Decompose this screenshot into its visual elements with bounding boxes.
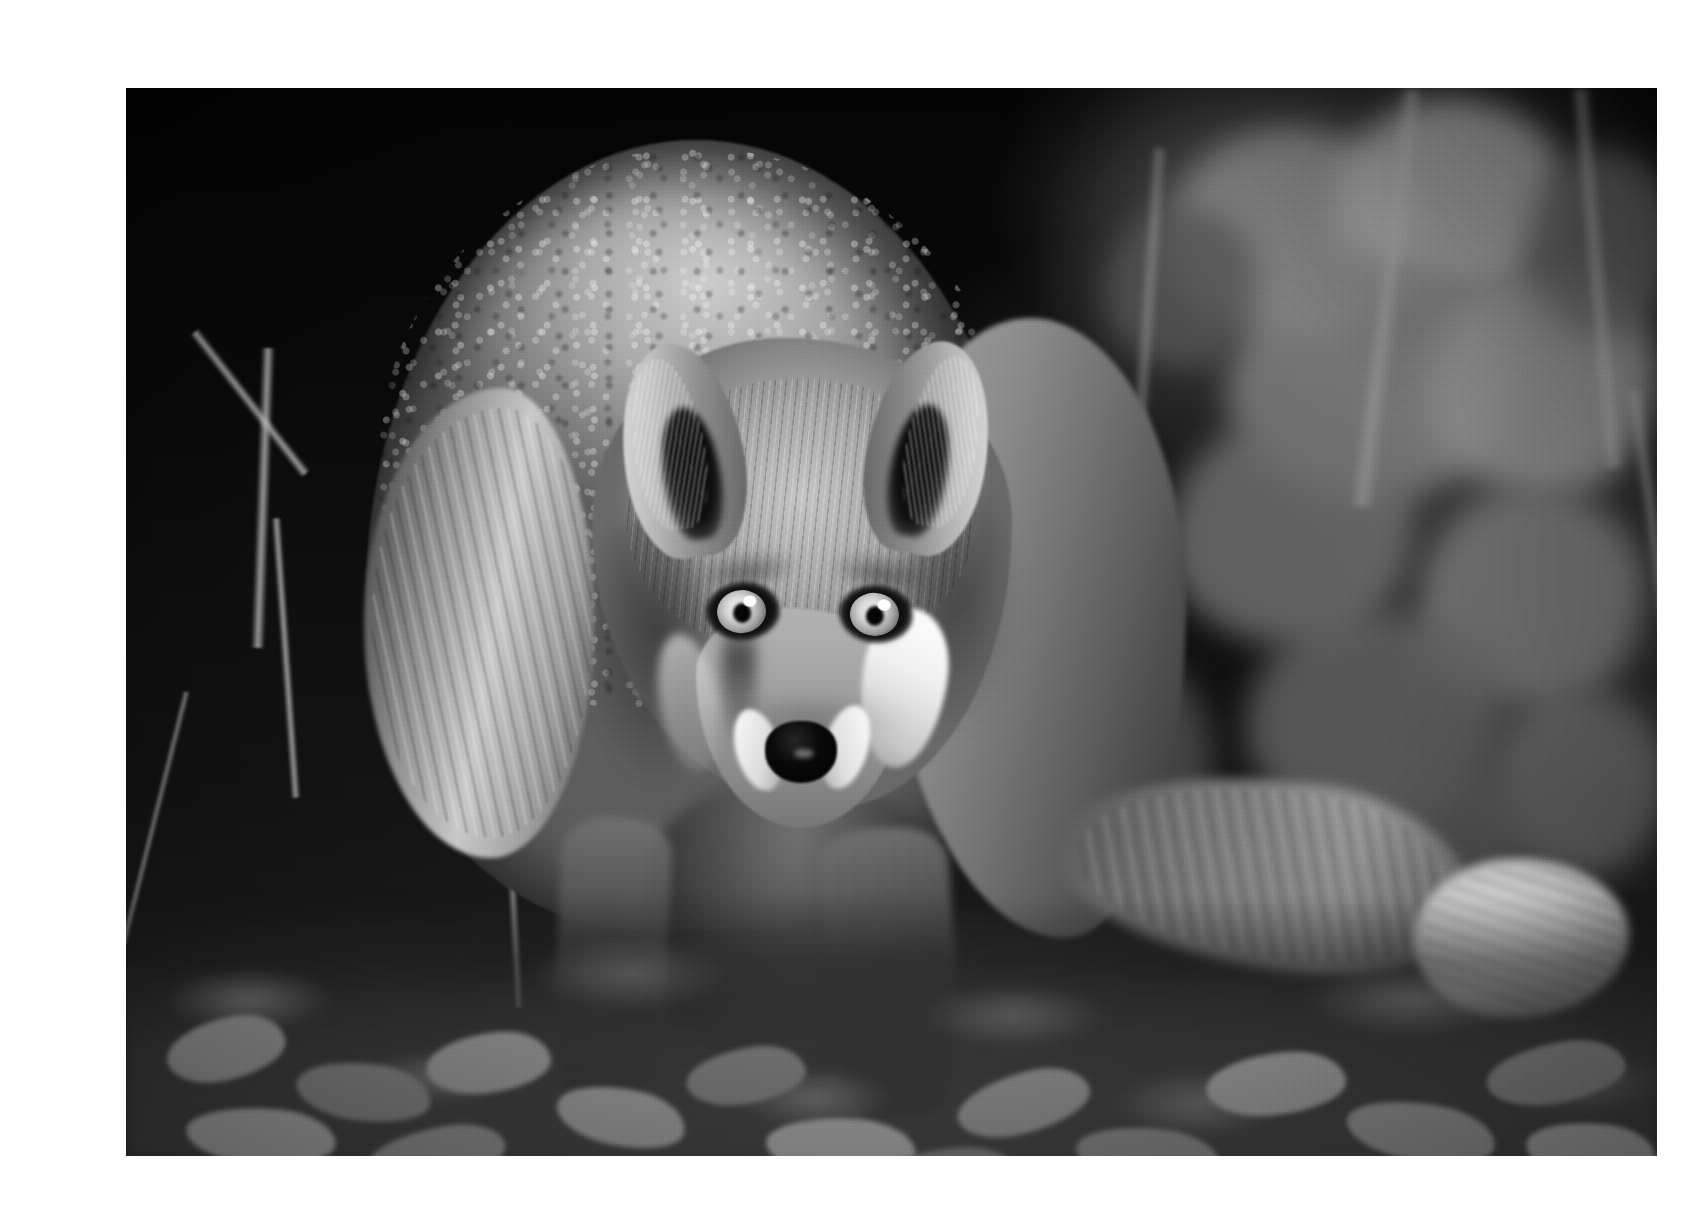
fox-nose-highlight — [794, 749, 814, 758]
page-canvas: A monochrome photograph of a red fox cro… — [0, 0, 1703, 1208]
fox-eye-left — [704, 579, 782, 642]
photograph: A monochrome photograph of a red fox cro… — [126, 88, 1657, 1156]
fox-eye-right — [837, 582, 915, 645]
